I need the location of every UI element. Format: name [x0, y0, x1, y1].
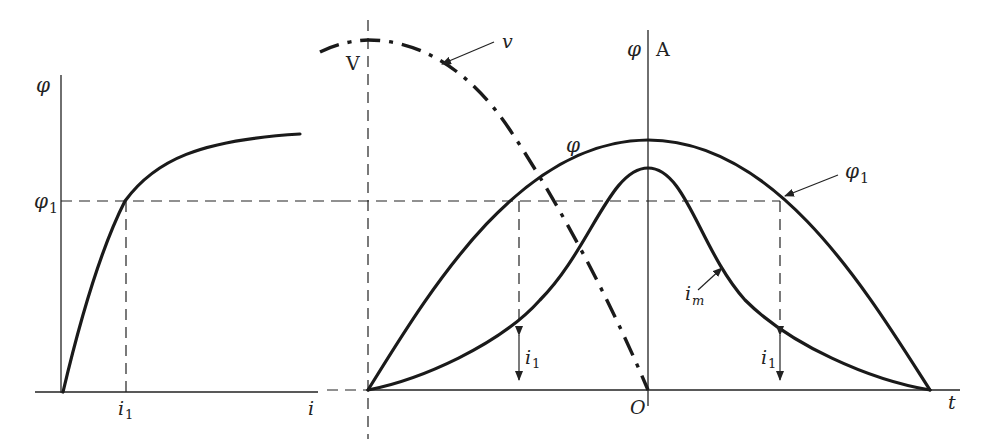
- ampere-axis-label: A: [655, 38, 670, 60]
- phi1-label: φ1: [34, 189, 58, 216]
- left-phi-axis-label: φ: [36, 73, 50, 97]
- phi1-point-label: φ1: [845, 159, 869, 186]
- phi-axis-label: φ: [627, 37, 641, 61]
- voltage-axis-label: V: [345, 52, 360, 74]
- im-label: im: [685, 282, 704, 308]
- v-curve-label: v: [502, 30, 513, 52]
- i1-left-label: i1: [525, 346, 540, 371]
- saturation-curve-panel: φ φ1 i1 i: [34, 73, 340, 422]
- v-pointer-arrow: [442, 42, 494, 64]
- waveform-panel: V v φ A φ φ1 im i1 i1 O t: [320, 20, 960, 439]
- origin-label: O: [630, 396, 646, 418]
- left-i-axis-label: i: [308, 397, 314, 419]
- i1-right-label: i1: [761, 346, 776, 371]
- magnetization-curve: [63, 134, 300, 392]
- time-axis-label: t: [948, 391, 956, 413]
- phi-curve-label: φ: [566, 133, 580, 157]
- i1-label: i1: [118, 397, 133, 422]
- im-pointer-arrow: [698, 268, 722, 290]
- transformer-magnetizing-diagram: φ φ1 i1 i V v φ A φ φ1 im i1 i1: [0, 0, 991, 439]
- phi1-pointer-arrow: [785, 175, 838, 196]
